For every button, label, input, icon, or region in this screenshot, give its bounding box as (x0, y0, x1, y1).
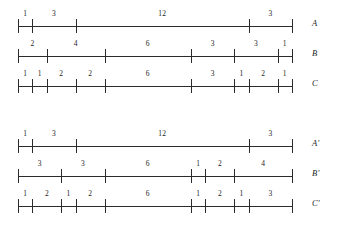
segment-label: 2 (88, 188, 92, 200)
axis-line (18, 26, 292, 27)
tick-mark (191, 169, 192, 183)
segment-label: 6 (146, 158, 150, 170)
tick-mark (292, 79, 293, 93)
ruler-row-C: 112263121C (0, 66, 338, 96)
segment-label: 4 (74, 38, 78, 50)
segment-label: 2 (218, 188, 222, 200)
tick-mark (76, 199, 77, 213)
segment-label: 3 (81, 158, 85, 170)
tick-mark (234, 49, 235, 63)
tick-mark (105, 169, 106, 183)
segment-label: 3 (52, 128, 56, 140)
tick-mark (278, 79, 279, 93)
segment-label: 1 (38, 68, 42, 80)
segment-label: 1 (283, 38, 287, 50)
segment-label: 3 (268, 128, 272, 140)
tick-mark (191, 49, 192, 63)
segment-label: 3 (211, 38, 215, 50)
ruler-row-Cprime: 121261213C' (0, 186, 338, 216)
segment-label: 3 (211, 68, 215, 80)
axis-line (18, 176, 292, 177)
axis-line (18, 146, 292, 147)
row-name-label: A' (312, 138, 319, 148)
tick-mark (292, 169, 293, 183)
tick-mark (105, 199, 106, 213)
tick-mark (18, 79, 19, 93)
row-name-label: B (312, 48, 317, 58)
ruler-row-A: 13123A (0, 6, 338, 36)
tick-mark (18, 49, 19, 63)
tick-mark (47, 49, 48, 63)
segment-label: 2 (88, 68, 92, 80)
tick-mark (61, 199, 62, 213)
segment-label: 1 (240, 188, 244, 200)
ruler-row-Bprime: 336124B' (0, 156, 338, 186)
segmented-ruler-figure: 13123A246331B112263121C13123A'336124B'12… (0, 0, 338, 235)
segment-label: 12 (158, 8, 166, 20)
tick-mark (76, 79, 77, 93)
tick-mark (234, 169, 235, 183)
segment-label: 2 (218, 158, 222, 170)
segment-label: 1 (23, 188, 27, 200)
segment-label: 6 (146, 68, 150, 80)
segment-label: 1 (196, 158, 200, 170)
ruler-row-Aprime: 13123A' (0, 126, 338, 156)
segment-label: 2 (59, 68, 63, 80)
tick-mark (234, 199, 235, 213)
tick-mark (105, 79, 106, 93)
segment-label: 1 (240, 68, 244, 80)
segment-label: 1 (23, 128, 27, 140)
row-name-label: B' (312, 168, 319, 178)
row-name-label: A (312, 18, 317, 28)
tick-mark (205, 169, 206, 183)
row-name-label: C (312, 78, 318, 88)
segment-label: 4 (261, 158, 265, 170)
tick-mark (205, 199, 206, 213)
tick-mark (76, 139, 77, 153)
tick-mark (249, 139, 250, 153)
tick-mark (292, 199, 293, 213)
segment-label: 3 (268, 8, 272, 20)
segment-label: 3 (268, 188, 272, 200)
tick-mark (76, 19, 77, 33)
tick-mark (292, 49, 293, 63)
segment-label: 1 (283, 68, 287, 80)
tick-mark (61, 169, 62, 183)
segment-label: 3 (38, 158, 42, 170)
tick-mark (278, 49, 279, 63)
axis-line (18, 206, 292, 207)
tick-mark (32, 19, 33, 33)
row-name-label: C' (312, 198, 320, 208)
segment-label: 6 (146, 38, 150, 50)
segment-label: 6 (146, 188, 150, 200)
segment-label: 3 (52, 8, 56, 20)
tick-mark (47, 79, 48, 93)
segment-label: 1 (23, 68, 27, 80)
segment-label: 2 (45, 188, 49, 200)
segment-label: 1 (23, 8, 27, 20)
segment-label: 12 (158, 128, 166, 140)
axis-line (18, 56, 292, 57)
segment-label: 3 (254, 38, 258, 50)
tick-mark (18, 139, 19, 153)
segment-label: 2 (30, 38, 34, 50)
tick-mark (191, 199, 192, 213)
tick-mark (18, 169, 19, 183)
tick-mark (32, 79, 33, 93)
tick-mark (292, 139, 293, 153)
tick-mark (18, 19, 19, 33)
segment-label: 2 (261, 68, 265, 80)
tick-mark (249, 79, 250, 93)
tick-mark (191, 79, 192, 93)
ruler-row-B: 246331B (0, 36, 338, 66)
tick-mark (292, 19, 293, 33)
axis-line (18, 86, 292, 87)
tick-mark (32, 199, 33, 213)
tick-mark (249, 19, 250, 33)
tick-mark (234, 79, 235, 93)
segment-label: 1 (196, 188, 200, 200)
tick-mark (18, 199, 19, 213)
tick-mark (32, 139, 33, 153)
segment-label: 1 (67, 188, 71, 200)
tick-mark (105, 49, 106, 63)
